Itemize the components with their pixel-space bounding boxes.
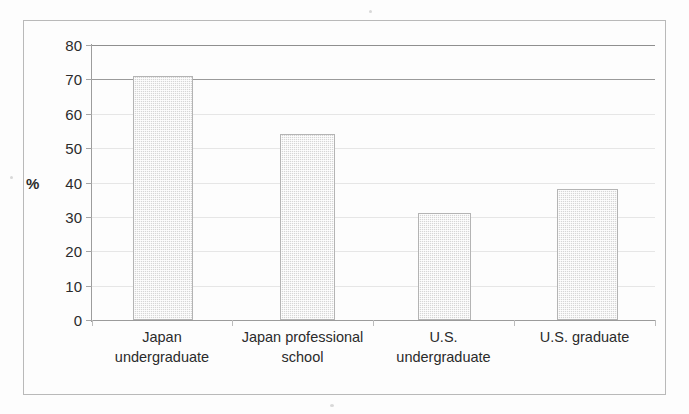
y-tick-40 <box>86 183 92 184</box>
scan-speck <box>330 404 334 407</box>
y-tick-label-50: 50 <box>38 141 82 156</box>
y-tick-label-70: 70 <box>38 72 82 87</box>
y-axis-tick-labels: 80 70 60 50 40 30 20 10 0 <box>32 0 82 414</box>
y-tick-label-0: 0 <box>38 313 82 328</box>
x-tick-separator <box>92 320 93 326</box>
y-axis-label: % <box>26 176 39 191</box>
scanned-page: 80 70 60 50 40 30 20 10 0 % Japan underg… <box>0 0 689 414</box>
category-label-line-1: U.S. <box>373 328 514 348</box>
y-tick-30 <box>86 217 92 218</box>
category-label-japan-professional-school: Japan professional school <box>232 328 373 367</box>
x-tick-separator <box>514 320 515 326</box>
x-tick-separator <box>655 320 656 326</box>
plot-area <box>92 45 655 320</box>
category-label-line-2: undergraduate <box>92 348 232 368</box>
y-tick-80 <box>86 45 92 46</box>
bar-us-graduate <box>557 189 618 320</box>
y-tick-10 <box>86 286 92 287</box>
category-label-line-1: Japan professional <box>232 328 373 348</box>
y-tick-label-80: 80 <box>38 38 82 53</box>
x-tick-separator <box>232 320 233 326</box>
y-tick-label-10: 10 <box>38 279 82 294</box>
y-tick-70 <box>86 79 92 80</box>
category-label-us-undergraduate: U.S. undergraduate <box>373 328 514 367</box>
category-label-us-graduate: U.S. graduate <box>514 328 655 348</box>
y-tick-60 <box>86 114 92 115</box>
y-tick-20 <box>86 251 92 252</box>
category-label-line-2: undergraduate <box>373 348 514 368</box>
bar-japan-professional-school <box>280 134 335 320</box>
scan-speck <box>369 10 372 13</box>
bar-us-undergraduate <box>418 213 471 320</box>
category-label-line-2: school <box>232 348 373 368</box>
category-label-line-1: Japan <box>92 328 232 348</box>
y-tick-label-30: 30 <box>38 210 82 225</box>
x-tick-separator <box>373 320 374 326</box>
bar-japan-undergraduate <box>133 76 193 320</box>
scan-speck <box>10 176 13 179</box>
y-tick-50 <box>86 148 92 149</box>
category-label-japan-undergraduate: Japan undergraduate <box>92 328 232 367</box>
y-tick-label-40: 40 <box>38 176 82 191</box>
y-tick-label-60: 60 <box>38 107 82 122</box>
y-tick-label-20: 20 <box>38 244 82 259</box>
category-label-line-1: U.S. graduate <box>514 328 655 348</box>
gridline-80 <box>92 45 655 46</box>
